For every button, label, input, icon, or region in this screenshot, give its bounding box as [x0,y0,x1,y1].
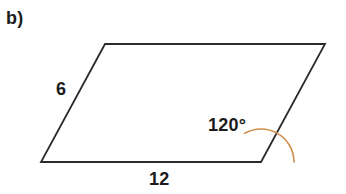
parallelogram-outline [41,44,325,162]
figure-canvas: b) 6 12 120° [0,0,346,194]
interior-angle-label: 120° [208,116,246,134]
side-length-label-bottom: 12 [149,170,169,188]
side-length-label-left: 6 [56,80,66,98]
parallelogram-diagram [0,0,346,194]
part-label: b) [6,9,23,27]
